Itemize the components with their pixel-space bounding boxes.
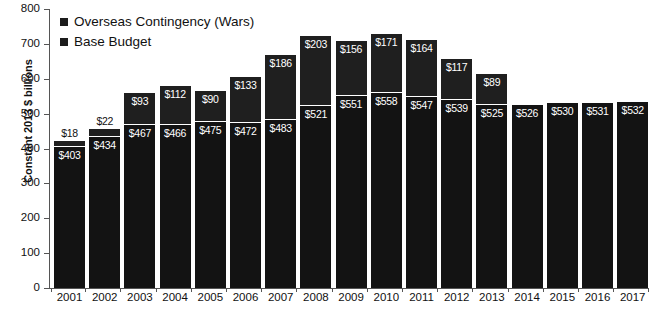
legend-label: Base Budget bbox=[74, 34, 151, 49]
bar-segment-base-budget[interactable] bbox=[476, 105, 507, 288]
bar-value-label-base: $475 bbox=[195, 125, 226, 136]
x-axis-tick-label: 2007 bbox=[261, 291, 301, 303]
bar-segment-base-budget[interactable] bbox=[89, 137, 120, 288]
legend-swatch-icon bbox=[60, 38, 68, 46]
x-axis-tick-label: 2009 bbox=[331, 291, 371, 303]
bar-segment-base-budget[interactable] bbox=[512, 105, 543, 288]
y-axis-tick-label: 300 bbox=[6, 176, 40, 188]
bar-segment-base-budget[interactable] bbox=[54, 147, 85, 288]
bar-segment-overseas-contingency[interactable] bbox=[89, 129, 120, 137]
chart-legend: Overseas Contingency (Wars) Base Budget bbox=[60, 13, 254, 53]
chart-title-cropped bbox=[0, 0, 651, 3]
bar-group[interactable]: $539$117 bbox=[441, 59, 472, 288]
bar-value-label-war: $18 bbox=[54, 128, 85, 139]
bar-segment-base-budget[interactable] bbox=[160, 125, 191, 288]
y-axis-tick-label: 400 bbox=[6, 142, 40, 154]
bar-value-label-war: $156 bbox=[336, 44, 367, 55]
bar-value-label-base: $547 bbox=[406, 100, 437, 111]
bar-value-label-base: $434 bbox=[89, 140, 120, 151]
x-axis-tick-label: 2001 bbox=[50, 291, 90, 303]
bar-segment-base-budget[interactable] bbox=[230, 123, 261, 288]
bar-group[interactable]: $467$93 bbox=[124, 93, 155, 288]
bar-value-label-war: $171 bbox=[371, 37, 402, 48]
stacked-bar-chart: Constant 2013 $ billions 010020030040050… bbox=[0, 0, 651, 316]
bar-segment-base-budget[interactable] bbox=[547, 103, 578, 288]
x-axis-tick-label: 2016 bbox=[578, 291, 618, 303]
bar-segment-base-budget[interactable] bbox=[582, 103, 613, 288]
x-axis-tick-label: 2014 bbox=[507, 291, 547, 303]
bar-group[interactable]: $472$133 bbox=[230, 77, 261, 288]
legend-label: Overseas Contingency (Wars) bbox=[74, 14, 254, 29]
x-axis-tick-label: 2006 bbox=[226, 291, 266, 303]
bar-value-label-base: $466 bbox=[160, 128, 191, 139]
bar-group[interactable]: $526 bbox=[512, 105, 543, 288]
bar-segment-base-budget[interactable] bbox=[371, 93, 402, 288]
bar-group[interactable]: $547$164 bbox=[406, 40, 437, 288]
bar-value-label-war: $22 bbox=[89, 116, 120, 127]
bar-value-label-base: $526 bbox=[512, 108, 543, 119]
x-axis-tick-label: 2002 bbox=[85, 291, 125, 303]
bar-group[interactable]: $551$156 bbox=[336, 41, 367, 288]
bar-segment-base-budget[interactable] bbox=[265, 120, 296, 288]
bar-group[interactable]: $466$112 bbox=[160, 86, 191, 288]
bar-group[interactable]: $525$89 bbox=[476, 74, 507, 288]
bar-group[interactable]: $530 bbox=[547, 103, 578, 288]
x-axis-tick-label: 2011 bbox=[402, 291, 442, 303]
x-axis-tick-label: 2004 bbox=[155, 291, 195, 303]
bar-value-label-base: $530 bbox=[547, 106, 578, 117]
bar-segment-base-budget[interactable] bbox=[336, 96, 367, 288]
bar-value-label-war: $164 bbox=[406, 43, 437, 54]
x-axis-tick-label: 2017 bbox=[613, 291, 651, 303]
y-axis-tick-label: 0 bbox=[6, 281, 40, 293]
y-axis-tick-label: 200 bbox=[6, 211, 40, 223]
bar-value-label-base: $403 bbox=[54, 150, 85, 161]
bar-segment-base-budget[interactable] bbox=[441, 100, 472, 288]
bar-group[interactable]: $403$18 bbox=[54, 141, 85, 288]
bar-group[interactable]: $483$186 bbox=[265, 55, 296, 288]
bar-value-label-war: $89 bbox=[476, 77, 507, 88]
y-axis-tick-label: 700 bbox=[6, 37, 40, 49]
y-axis-tick-label: 500 bbox=[6, 107, 40, 119]
bar-group[interactable]: $475$90 bbox=[195, 91, 226, 288]
bar-value-label-war: $133 bbox=[230, 80, 261, 91]
bar-value-label-war: $112 bbox=[160, 89, 191, 100]
x-axis-tick-label: 2003 bbox=[120, 291, 160, 303]
bar-value-label-base: $472 bbox=[230, 126, 261, 137]
bar-segment-base-budget[interactable] bbox=[406, 97, 437, 288]
bar-value-label-base: $558 bbox=[371, 96, 402, 107]
x-axis-tick-label: 2012 bbox=[437, 291, 477, 303]
bar-value-label-base: $539 bbox=[441, 103, 472, 114]
y-axis-tick-label: 800 bbox=[6, 2, 40, 14]
x-axis-tick-label: 2015 bbox=[542, 291, 582, 303]
x-axis-tick-label: 2005 bbox=[190, 291, 230, 303]
x-axis-tick bbox=[51, 288, 52, 292]
bar-segment-base-budget[interactable] bbox=[617, 102, 648, 288]
bar-value-label-war: $90 bbox=[195, 94, 226, 105]
bar-segment-base-budget[interactable] bbox=[124, 125, 155, 288]
bar-value-label-base: $531 bbox=[582, 106, 613, 117]
bar-group[interactable]: $531 bbox=[582, 103, 613, 288]
bar-value-label-base: $467 bbox=[124, 128, 155, 139]
y-axis-tick bbox=[44, 288, 50, 289]
bar-value-label-base: $521 bbox=[300, 109, 331, 120]
legend-item-overseas-contingency: Overseas Contingency (Wars) bbox=[60, 13, 254, 30]
bar-value-label-base: $532 bbox=[617, 105, 648, 116]
bar-segment-base-budget[interactable] bbox=[300, 106, 331, 288]
bar-value-label-war: $203 bbox=[300, 39, 331, 50]
y-axis-tick-label: 100 bbox=[6, 246, 40, 258]
bar-group[interactable]: $521$203 bbox=[300, 36, 331, 288]
bar-segment-base-budget[interactable] bbox=[195, 122, 226, 288]
bar-segment-overseas-contingency[interactable] bbox=[54, 141, 85, 147]
bar-group[interactable]: $558$171 bbox=[371, 34, 402, 288]
bar-group[interactable]: $532 bbox=[617, 102, 648, 288]
x-axis-line bbox=[49, 288, 648, 289]
y-axis-title: Constant 2013 $ billions bbox=[22, 46, 34, 196]
bar-value-label-base: $483 bbox=[265, 123, 296, 134]
y-axis-tick-label: 600 bbox=[6, 72, 40, 84]
bar-value-label-war: $93 bbox=[124, 96, 155, 107]
bar-value-label-war: $117 bbox=[441, 62, 472, 73]
bar-value-label-war: $186 bbox=[265, 58, 296, 69]
bar-value-label-base: $551 bbox=[336, 99, 367, 110]
bar-group[interactable]: $434$22 bbox=[89, 129, 120, 288]
x-axis-tick-label: 2010 bbox=[366, 291, 406, 303]
